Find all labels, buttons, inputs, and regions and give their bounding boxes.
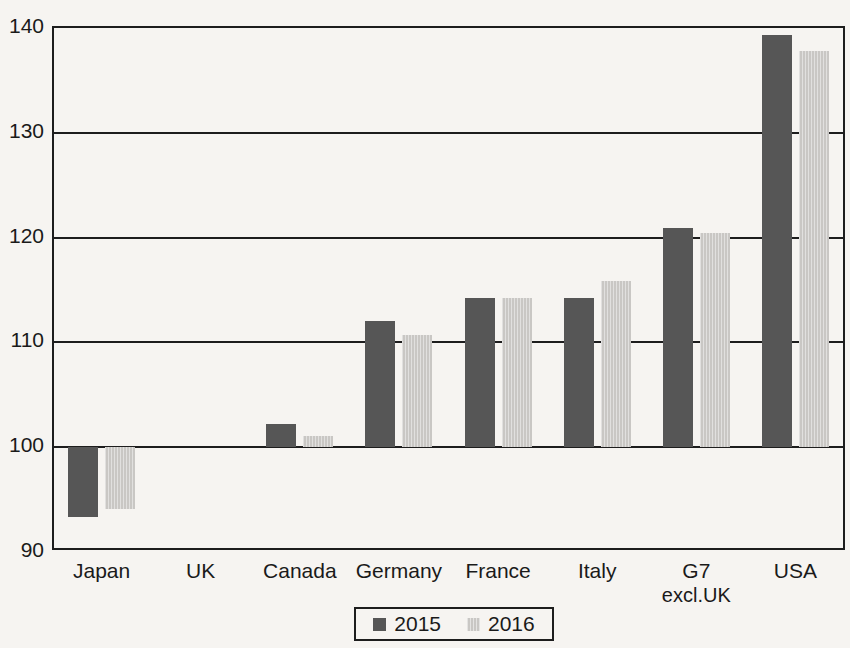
x-label-line1: Italy [578,559,617,582]
bar-italy-2016 [601,281,631,448]
bar-japan-2015 [68,447,98,517]
bar-canada-2015 [266,424,296,447]
y-tick-label-120: 120 [0,224,44,248]
x-label-france: France [449,558,548,583]
x-label-line1: USA [774,559,817,582]
x-label-line1: G7 [682,559,710,582]
y-tick-label-110: 110 [0,328,44,352]
x-label-line1: Japan [73,559,130,582]
y-tick-label-140: 140 [0,14,44,38]
x-label-usa: USA [746,558,845,583]
bar-italy-2015 [564,298,594,447]
legend-label: 2016 [488,612,535,636]
x-label-line2: excl.UK [647,583,746,608]
x-label-canada: Canada [250,558,349,583]
gridline-130 [54,132,843,134]
x-label-line1: Canada [263,559,337,582]
bar-france-2015 [465,298,495,447]
y-tick-label-90: 90 [0,538,44,562]
legend-swatch-dark-gray-square [373,618,386,631]
legend-entry-2015: 2015 [373,612,441,636]
x-label-g7-excl-uk: G7excl.UK [647,558,746,608]
bar-france-2016 [502,298,532,447]
bar-g7-excl-uk-2015 [663,228,693,447]
y-tick-label-130: 130 [0,119,44,143]
legend-swatch-light-gray-square [467,618,480,631]
x-label-italy: Italy [548,558,647,583]
bar-usa-2015 [762,35,792,447]
bar-g7-excl-uk-2016 [700,233,730,447]
bar-usa-2016 [799,51,829,447]
y-tick-label-100: 100 [0,433,44,457]
x-label-uk: UK [151,558,250,583]
x-label-line1: UK [186,559,215,582]
x-label-japan: Japan [52,558,151,583]
plot-area [52,26,845,550]
legend-label: 2015 [394,612,441,636]
legend-entry-2016: 2016 [467,612,535,636]
x-label-germany: Germany [349,558,448,583]
bar-chart: 90100110120130140 JapanUKCanadaGermanyFr… [0,0,850,648]
bar-japan-2016 [105,447,135,509]
bar-germany-2016 [402,335,432,447]
bar-canada-2016 [303,436,333,448]
x-label-line1: France [465,559,530,582]
chart-legend: 20152016 [354,607,554,641]
bar-germany-2015 [365,321,395,447]
x-label-line1: Germany [356,559,442,582]
